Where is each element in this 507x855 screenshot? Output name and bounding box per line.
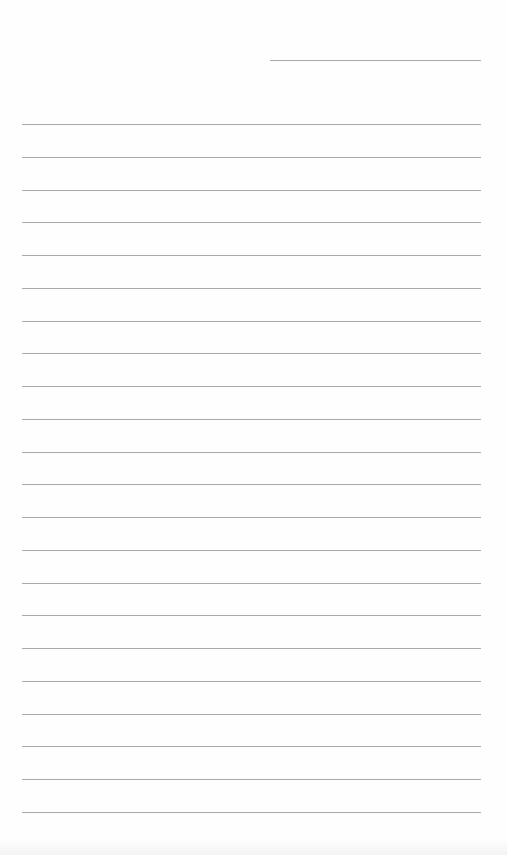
ruled-line xyxy=(22,288,481,289)
ruled-line xyxy=(22,419,481,420)
ruled-line xyxy=(22,517,481,518)
page-bottom-edge xyxy=(0,838,507,855)
ruled-line xyxy=(22,746,481,747)
ruled-line xyxy=(22,255,481,256)
ruled-line xyxy=(22,484,481,485)
lined-paper-page xyxy=(0,0,507,855)
ruled-line xyxy=(22,190,481,191)
ruled-line xyxy=(22,353,481,354)
ruled-line xyxy=(22,157,481,158)
ruled-line xyxy=(22,779,481,780)
ruled-line xyxy=(22,583,481,584)
ruled-line xyxy=(22,681,481,682)
ruled-line xyxy=(22,812,481,813)
ruled-line xyxy=(22,386,481,387)
ruled-line xyxy=(22,452,481,453)
ruled-line xyxy=(22,550,481,551)
ruled-line xyxy=(22,124,481,125)
header-name-line xyxy=(270,60,481,61)
ruled-line xyxy=(22,714,481,715)
ruled-line xyxy=(22,222,481,223)
ruled-line xyxy=(22,615,481,616)
ruled-line xyxy=(22,321,481,322)
ruled-line xyxy=(22,648,481,649)
